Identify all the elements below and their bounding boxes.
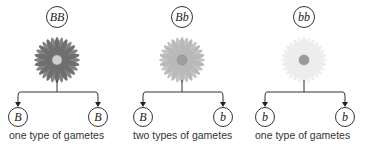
- gamete-label-left: b: [255, 107, 275, 127]
- flower-icon: [159, 37, 205, 83]
- panel-bb-homozygous-recessive: bb b b one type of gametes: [250, 0, 367, 156]
- gamete-label-right: b: [213, 107, 233, 127]
- panel-bb-heterozygous: Bb B b two types of gametes: [125, 0, 247, 156]
- gamete-label-left: B: [8, 107, 28, 127]
- flower-icon: [34, 37, 80, 83]
- flower-icon: [281, 37, 327, 83]
- caption: one type of gametes: [9, 129, 104, 141]
- caption: two types of gametes: [133, 129, 232, 141]
- gamete-label-right: b: [335, 107, 355, 127]
- gamete-label-right: B: [88, 107, 108, 127]
- caption: one type of gametes: [255, 129, 350, 141]
- genotype-label: bb: [293, 6, 315, 28]
- genotype-label: Bb: [171, 6, 193, 28]
- gamete-label-left: B: [133, 107, 153, 127]
- panel-bb-homozygous-dominant: BB B B one type of gametes: [0, 0, 122, 156]
- genotype-label: BB: [46, 6, 68, 28]
